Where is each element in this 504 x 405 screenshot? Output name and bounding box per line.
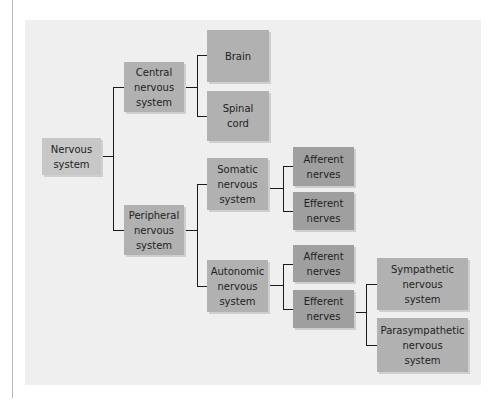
connector	[283, 211, 293, 212]
connector	[184, 230, 197, 231]
connector	[184, 87, 197, 88]
connector	[197, 184, 198, 286]
node-central-nervous-system: Central nervous system	[124, 62, 184, 112]
connector	[101, 156, 113, 157]
node-parasympathetic-nervous-system: Parasympathetic nervous system	[377, 318, 468, 372]
connector	[197, 55, 207, 56]
connector	[354, 312, 366, 313]
node-somatic-nervous-system: Somatic nervous system	[207, 158, 268, 210]
connector	[283, 166, 284, 211]
connector	[197, 286, 207, 287]
node-somatic-afferent-nerves: Afferent nerves	[293, 147, 354, 186]
connector	[366, 284, 377, 285]
connector	[197, 184, 207, 185]
node-peripheral-nervous-system: Peripheral nervous system	[124, 205, 184, 255]
node-somatic-efferent-nerves: Efferent nerves	[293, 192, 354, 230]
page-margin-rule	[12, 0, 13, 398]
connector	[283, 166, 293, 167]
connector	[283, 264, 284, 309]
connector	[113, 87, 114, 230]
connector	[268, 285, 283, 286]
node-spinal-cord: Spinal cord	[207, 91, 269, 141]
connector	[268, 188, 283, 189]
connector	[366, 284, 367, 345]
connector	[197, 116, 207, 117]
node-autonomic-nervous-system: Autonomic nervous system	[207, 260, 268, 312]
node-nervous-system: Nervous system	[42, 138, 101, 175]
node-autonomic-afferent-nerves: Afferent nerves	[293, 245, 354, 282]
node-brain: Brain	[207, 30, 269, 82]
connector	[113, 230, 124, 231]
connector	[283, 264, 293, 265]
connector	[366, 345, 377, 346]
connector	[197, 55, 198, 117]
connector	[113, 87, 124, 88]
connector	[283, 309, 293, 310]
node-autonomic-efferent-nerves: Efferent nerves	[293, 290, 354, 328]
node-sympathetic-nervous-system: Sympathetic nervous system	[377, 258, 468, 310]
